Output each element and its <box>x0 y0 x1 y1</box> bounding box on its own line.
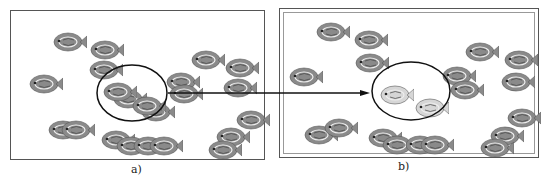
annotation-overlay <box>0 0 550 181</box>
label-a: a) <box>131 163 142 176</box>
arrow-head <box>360 90 370 96</box>
label-b: b) <box>398 160 409 173</box>
circle-b <box>372 62 450 120</box>
circle-a <box>97 65 167 121</box>
